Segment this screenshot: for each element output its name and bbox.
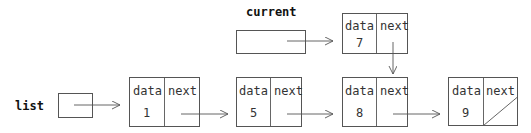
data-field-label: data: [345, 84, 374, 98]
node-value: 5: [250, 106, 257, 120]
next-field-label: next: [380, 19, 409, 33]
node-value: 7: [356, 36, 363, 50]
data-field-label: data: [239, 84, 268, 98]
node-5: data next 5: [237, 78, 303, 127]
next-field-label: next: [168, 84, 197, 98]
node-value: 9: [462, 106, 469, 120]
list-pointer-box: [59, 94, 93, 118]
linked-list-diagram: list current data next 1 data next 5 dat…: [0, 0, 531, 133]
node-value: 8: [356, 106, 363, 120]
node-7: data next 7: [343, 14, 409, 54]
next-field-label: next: [380, 84, 409, 98]
node-value: 1: [143, 106, 150, 120]
data-field-label: data: [452, 84, 481, 98]
data-field-label: data: [345, 19, 374, 33]
current-label: current: [246, 5, 297, 19]
next-field-label: next: [274, 84, 303, 98]
data-field-label: data: [133, 84, 162, 98]
node-1: data next 1: [130, 78, 200, 127]
node-9: data next 9: [449, 78, 518, 126]
node-8: data next 8: [343, 78, 409, 127]
current-pointer-box: [237, 31, 306, 54]
next-field-label: next: [486, 84, 515, 98]
list-label: list: [15, 99, 44, 113]
